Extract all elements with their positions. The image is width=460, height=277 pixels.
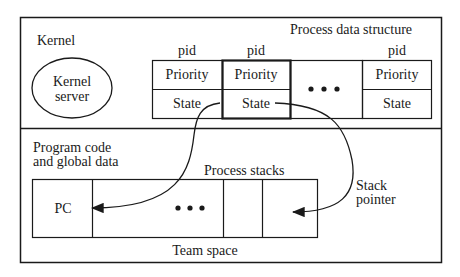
state-cell-4: State <box>383 96 411 111</box>
kernel-server-label-1: Kernel <box>53 74 91 89</box>
pc-label: PC <box>54 201 71 216</box>
team-space-label: Team space <box>172 243 237 258</box>
program-code-label-2: and global data <box>33 154 119 169</box>
priority-cell-4: Priority <box>376 67 419 82</box>
stack-pointer-label-2: pointer <box>356 192 396 207</box>
stack-pointer-label-1: Stack <box>356 178 387 193</box>
process-stacks-label: Process stacks <box>204 163 285 178</box>
process-data-structure-title: Process data structure <box>290 22 412 37</box>
pid-header-1: pid <box>178 43 196 58</box>
priority-cell-1: Priority <box>166 67 209 82</box>
kernel-server-label-2: server <box>55 89 89 104</box>
pid-header-4: pid <box>388 43 406 58</box>
kernel-label: Kernel <box>37 33 75 48</box>
priority-cell-2: Priority <box>235 67 278 82</box>
state-cell-2: State <box>242 96 270 111</box>
state-cell-1: State <box>173 96 201 111</box>
program-code-label-1: Program code <box>33 140 111 155</box>
stacks-box <box>33 180 318 238</box>
pid-header-2: pid <box>247 43 265 58</box>
